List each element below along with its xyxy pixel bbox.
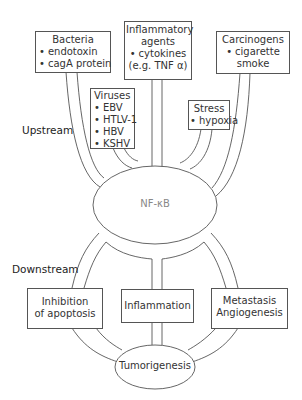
carcinogens-title: Carcinogens: [219, 34, 287, 46]
stress-item: hypoxia: [190, 115, 238, 126]
viruses-box: Viruses EBV HTLV-1 HBV KSHV: [90, 88, 135, 149]
inflammatory-title-line: Inflammatory: [126, 24, 190, 36]
bacteria-box: Bacteria endotoxin cagA protein: [35, 31, 111, 73]
tumorigenesis-node: Tumorigenesis: [115, 360, 195, 371]
viruses-item: HTLV-1: [94, 114, 131, 126]
downstream-label: Downstream: [12, 263, 79, 275]
inhibition-line: of apoptosis: [29, 308, 101, 320]
stress-title: Stress: [190, 103, 228, 115]
bacteria-title: Bacteria: [39, 34, 107, 46]
inflammatory-agents-box: Inflammatory agents cytokines (e.g. TNF …: [124, 21, 192, 80]
inflammatory-title-line: agents: [126, 36, 190, 48]
nfkb-node: NF-κB: [93, 198, 217, 209]
inflammatory-note: (e.g. TNF α): [126, 60, 190, 72]
metastasis-line: Angiogenesis: [213, 307, 286, 319]
carcinogens-note: smoke: [219, 58, 287, 70]
inflammation-box: Inflammation: [121, 289, 194, 323]
stress-connector: [180, 129, 201, 163]
carcinogens-item: cigarette: [226, 46, 280, 57]
viruses-item: KSHV: [94, 138, 131, 150]
upstream-label: Upstream: [22, 124, 73, 136]
metastasis-angiogenesis-box: Metastasis Angiogenesis: [211, 288, 288, 329]
stress-box: Stress hypoxia: [188, 100, 230, 130]
carcinogens-connector: [212, 73, 240, 188]
viruses-connector: [113, 148, 132, 168]
metastasis-line: Metastasis: [213, 295, 286, 307]
carcinogens-box: Carcinogens cigarette smoke: [216, 31, 290, 74]
metastasis-to-tumor-connector: [192, 328, 238, 362]
bacteria-item: endotoxin: [39, 46, 107, 58]
inhibition-of-apoptosis-box: Inhibition of apoptosis: [27, 288, 103, 329]
inflammatory-item: cytokines: [130, 48, 187, 59]
downstream-right-connector: [211, 233, 238, 288]
inhibition-line: Inhibition: [29, 296, 101, 308]
inhibition-to-tumor-connector: [72, 328, 118, 362]
downstream-left-connector: [72, 233, 99, 288]
bacteria-item: cagA protein: [39, 58, 107, 70]
inflammation-line: Inflammation: [123, 300, 192, 312]
viruses-title: Viruses: [94, 90, 131, 102]
viruses-item: EBV: [94, 102, 131, 114]
viruses-item: HBV: [94, 126, 131, 138]
downstream-center-connector: [106, 242, 152, 289]
